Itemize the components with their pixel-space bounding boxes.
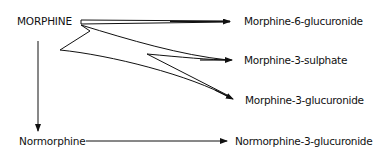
morphine-label: MORPHINE [17, 16, 72, 27]
m6g-label: Morphine-6-glucuronide [244, 16, 363, 27]
m3g-label: Morphine-3-glucuronide [245, 95, 364, 106]
n3g-label: Normorphine-3-glucuronide [235, 136, 372, 147]
arrow-morphine-to-m3s-m3g [60, 25, 233, 99]
m3s-label: Morphine-3-sulphate [244, 55, 347, 66]
arrow-morphine-to-m6g [81, 20, 230, 24]
normorphine-label: Normorphine [19, 136, 86, 147]
